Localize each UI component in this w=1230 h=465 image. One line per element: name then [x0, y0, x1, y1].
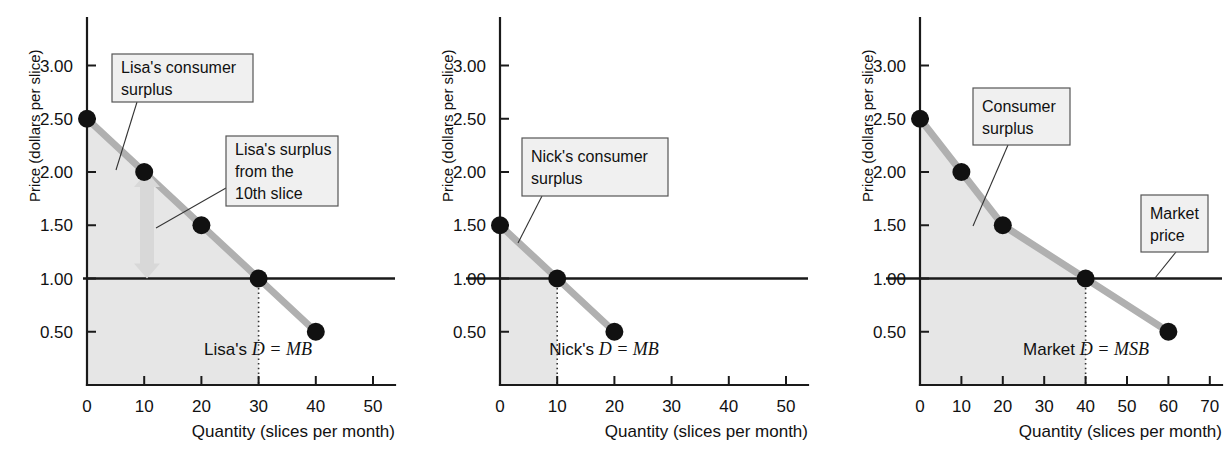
- y-axis-tick-label: 3.00: [873, 57, 906, 76]
- x-axis-tick-label: 10: [548, 397, 567, 416]
- data-point-marker: [994, 216, 1012, 234]
- x-axis-tick-label: 20: [993, 397, 1012, 416]
- y-axis-tick-label: 2.00: [873, 163, 906, 182]
- y-axis-title: Price (dollars per slice): [859, 49, 876, 202]
- y-axis-tick-label: 1.50: [453, 216, 486, 235]
- data-point-marker: [911, 110, 929, 128]
- x-axis-tick-label: 20: [192, 397, 211, 416]
- callout-nick-consumer-surplus: Nick's consumersurplus: [518, 138, 668, 243]
- callout-text-line: Lisa's consumer: [121, 59, 237, 76]
- x-axis-tick-label: 10: [952, 397, 971, 416]
- callout-leader-line: [1155, 252, 1176, 278]
- x-axis-tick-label: 50: [777, 397, 796, 416]
- x-axis-tick-label: 30: [249, 397, 268, 416]
- figure-canvas: 0.501.001.502.002.503.0001020304050Quant…: [0, 0, 1230, 465]
- x-axis-tick-label: 40: [1076, 397, 1095, 416]
- callout-text-line: Lisa's surplus: [235, 141, 331, 158]
- x-axis-tick-label: 60: [1159, 397, 1178, 416]
- y-axis-title: Price (dollars per slice): [26, 49, 43, 202]
- y-axis-tick-label: 0.50: [453, 323, 486, 342]
- x-axis-tick-label: 50: [364, 397, 383, 416]
- y-axis-tick-label: 1.00: [453, 270, 486, 289]
- x-axis-title: Quantity (slices per month): [192, 422, 395, 441]
- y-axis-tick-label: 2.50: [873, 110, 906, 129]
- callout-text-line: from the: [235, 163, 294, 180]
- y-axis-tick-label: 2.00: [453, 163, 486, 182]
- callout-text-line: surplus: [531, 170, 583, 187]
- consumer-surplus-figure: 0.501.001.502.002.503.0001020304050Quant…: [0, 0, 1230, 465]
- x-axis-tick-label: 0: [915, 397, 924, 416]
- data-point-marker: [78, 110, 96, 128]
- x-axis-tick-label: 50: [1118, 397, 1137, 416]
- demand-curve-label: Lisa's D = MB: [204, 339, 312, 359]
- callout-text-line: Consumer: [982, 98, 1056, 115]
- callout-text-line: surplus: [121, 81, 173, 98]
- y-axis-title: Price (dollars per slice): [439, 49, 456, 202]
- y-axis-tick-label: 0.50: [873, 323, 906, 342]
- x-axis-title: Quantity (slices per month): [605, 422, 808, 441]
- demand-curve-label: Nick's D = MB: [549, 339, 659, 359]
- y-axis-tick-label: 1.00: [873, 270, 906, 289]
- y-axis-tick-label: 0.50: [40, 323, 73, 342]
- y-axis-tick-label: 1.50: [40, 216, 73, 235]
- callout-text-line: 10th slice: [235, 185, 303, 202]
- y-axis-tick-label: 3.00: [453, 57, 486, 76]
- callout-market-price-callout: Marketprice: [1141, 195, 1208, 278]
- x-axis-tick-label: 30: [662, 397, 681, 416]
- x-axis-tick-label: 40: [719, 397, 738, 416]
- callout-leader-line: [518, 196, 542, 243]
- y-axis-tick-label: 3.00: [40, 57, 73, 76]
- callout-text-line: price: [1150, 227, 1185, 244]
- x-axis-title: Quantity (slices per month): [1019, 422, 1222, 441]
- x-axis-tick-label: 0: [495, 397, 504, 416]
- callout-text-line: surplus: [982, 120, 1034, 137]
- callout-text-line: Nick's consumer: [531, 148, 649, 165]
- x-axis-tick-label: 70: [1200, 397, 1219, 416]
- x-axis-tick-label: 30: [1035, 397, 1054, 416]
- data-point-marker: [135, 163, 153, 181]
- callout-text-line: Market: [1150, 205, 1199, 222]
- x-axis-tick-label: 10: [135, 397, 154, 416]
- x-axis-tick-label: 0: [82, 397, 91, 416]
- data-point-marker: [250, 270, 268, 288]
- chart-panel-nick: 0.501.001.502.002.503.0001020304050Quant…: [439, 18, 808, 441]
- data-point-marker: [1077, 270, 1095, 288]
- x-axis-tick-label: 40: [306, 397, 325, 416]
- y-axis-tick-label: 1.00: [40, 270, 73, 289]
- y-axis-tick-label: 1.50: [873, 216, 906, 235]
- y-axis-tick-label: 2.50: [40, 110, 73, 129]
- y-axis-tick-label: 2.50: [453, 110, 486, 129]
- y-axis-tick-label: 2.00: [40, 163, 73, 182]
- x-axis-tick-label: 20: [605, 397, 624, 416]
- data-point-marker: [952, 163, 970, 181]
- data-point-marker: [548, 270, 566, 288]
- callout-box: [522, 138, 668, 196]
- data-point-marker: [192, 216, 210, 234]
- data-point-marker: [1159, 323, 1177, 341]
- demand-curve-label: Market D = MSB: [1023, 339, 1149, 359]
- data-point-marker: [491, 216, 509, 234]
